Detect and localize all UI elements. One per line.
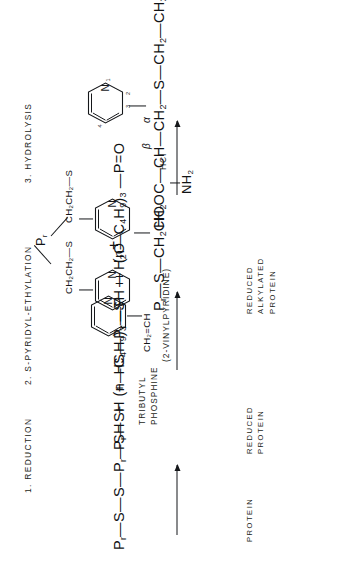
svg-text:N: N bbox=[107, 200, 118, 207]
figure-canvas: 1. REDUCTION 2. S-PYRIDYL-ETHYLATION 3. … bbox=[0, 0, 363, 566]
svg-text:2: 2 bbox=[124, 92, 130, 95]
bond-upper-chain-to-ring bbox=[79, 289, 93, 290]
vinyl-group: CH2=CH bbox=[140, 313, 151, 352]
amine-group: NH2 bbox=[178, 170, 194, 194]
label-reduced-alkylated-protein: REDUCED ALKYLATED PROTEIN bbox=[243, 257, 277, 314]
svg-text:1: 1 bbox=[105, 78, 111, 81]
svg-text:N: N bbox=[107, 271, 118, 278]
bond-ring-to-mainchain bbox=[134, 232, 150, 233]
reagent-line-2: PHOSPHINE bbox=[148, 366, 160, 425]
reaction-arrow-1 bbox=[176, 465, 177, 535]
bond-final-ring-to-chain bbox=[129, 105, 146, 106]
plus-sign-product: + bbox=[104, 241, 122, 250]
equation-hydrolysis-product: HOOC—CH—CH2—S—CH2—CH2 bbox=[150, 0, 168, 228]
step-heading-reduction: 1. REDUCTION bbox=[22, 418, 32, 493]
label-reduced-protein-line-1: REDUCED bbox=[243, 406, 254, 454]
pyridine-ring-final: N 1 2 3 4 bbox=[82, 72, 130, 128]
label-reduced-alkylated-line-3: PROTEIN bbox=[266, 257, 277, 314]
branch-atom-protein: Pr bbox=[33, 235, 48, 246]
label-reduced-alkylated-line-2: ALKYLATED bbox=[254, 257, 265, 314]
label-protein: PROTEIN bbox=[243, 498, 254, 542]
reagent-line-1: TRIBUTYL bbox=[136, 366, 148, 425]
ethylthio-chain-upper: CH2CH2—S bbox=[62, 241, 73, 294]
label-reduced-protein: REDUCED PROTEIN bbox=[243, 406, 266, 454]
reaction-arrow-3 bbox=[176, 121, 177, 195]
ethylthio-chain-lower: CH2CH2—S bbox=[62, 170, 73, 223]
bond-lower-chain-to-ring bbox=[79, 218, 93, 219]
label-protein-line-1: PROTEIN bbox=[243, 498, 254, 542]
label-reduced-alkylated-line-1: REDUCED bbox=[243, 257, 254, 314]
reaction-arrow-2 bbox=[176, 292, 177, 370]
pyridine-ring-product-lower: N bbox=[92, 197, 132, 241]
bond-ring-to-vinyl bbox=[127, 315, 142, 316]
bond-branch-left bbox=[33, 245, 51, 264]
svg-text:4: 4 bbox=[96, 124, 102, 127]
pyridine-ring-product-upper: N bbox=[92, 268, 132, 312]
svg-text:N: N bbox=[100, 84, 111, 91]
step-heading-pyridylethylation: 2. S-PYRIDYL-ETHYLATION bbox=[22, 246, 32, 385]
label-reduced-protein-line-2: PROTEIN bbox=[254, 406, 265, 454]
step-heading-hydrolysis: 3. HYDROLYSIS bbox=[22, 103, 32, 183]
reagent-tributyl-phosphine: TRIBUTYL PHOSPHINE bbox=[136, 366, 160, 425]
locant-beta: β bbox=[140, 143, 151, 149]
locant-alpha: α bbox=[140, 117, 151, 123]
